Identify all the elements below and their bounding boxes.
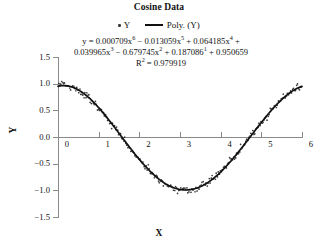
x-axis-tick-label: 6 <box>303 139 318 149</box>
x-axis-title: X <box>0 228 318 238</box>
y-axis-title: Y <box>8 119 18 141</box>
x-axis-tick <box>99 132 100 138</box>
x-axis-tick <box>58 132 59 138</box>
x-axis-tick-label: 5 <box>262 139 278 149</box>
x-axis-tick-label: 4 <box>222 139 238 149</box>
x-axis-tick <box>180 132 181 138</box>
x-axis-tick-label: 0 <box>59 139 75 149</box>
x-axis-tick <box>302 132 303 138</box>
x-axis-tick <box>221 132 222 138</box>
x-axis-tick <box>139 132 140 138</box>
x-axis-tick-group: 0123456 <box>0 0 318 250</box>
x-axis-tick-label: 3 <box>181 139 197 149</box>
cosine-data-chart: Cosine Data Y Poly. (Y) y = 0.000709x6 −… <box>0 0 318 250</box>
x-axis-tick-label: 1 <box>100 139 116 149</box>
x-axis-tick-label: 2 <box>140 139 156 149</box>
x-axis-tick <box>261 132 262 138</box>
